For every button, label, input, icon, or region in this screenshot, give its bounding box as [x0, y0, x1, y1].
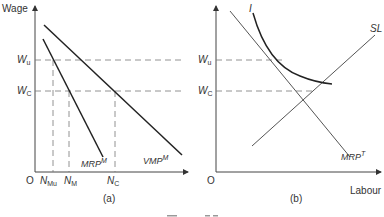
vmp-m-curve [44, 25, 182, 155]
nmu-label: NMu [40, 175, 57, 187]
panel-b-wu-label: Wu [198, 54, 211, 66]
wage-axis-label: Wage [2, 3, 28, 14]
nm-label: NM [64, 175, 77, 187]
sl-label: SL [370, 23, 382, 34]
i-label: I [249, 3, 252, 14]
panel-a: Wage Wu WC O NMu NM NC VMPM MRPM (a) [2, 3, 188, 204]
panel-b-wc-label: WC [198, 85, 213, 97]
figure-caption-partial [167, 215, 218, 217]
mrp-t-label: MRPT [341, 150, 366, 162]
labour-axis-label: Labour [350, 185, 382, 196]
panel-a-caption: (a) [103, 193, 115, 204]
indifference-curve-i [253, 13, 332, 84]
mrp-m-curve [43, 39, 103, 157]
panel-a-origin-label: O [26, 175, 34, 186]
panel-b-caption: (b) [290, 193, 302, 204]
panel-a-wu-label: Wu [17, 54, 30, 66]
panel-a-wc-label: WC [17, 85, 32, 97]
panel-b-origin-label: O [207, 175, 215, 186]
vmp-m-label: VMPM [143, 154, 169, 166]
figure-canvas: Wage Wu WC O NMu NM NC VMPM MRPM (a) Wu … [0, 0, 384, 217]
nc-label: NC [107, 175, 119, 187]
panel-b: Wu WC O Labour MRPT SL I (b) [198, 3, 382, 204]
mrp-m-label: MRPM [81, 157, 107, 169]
